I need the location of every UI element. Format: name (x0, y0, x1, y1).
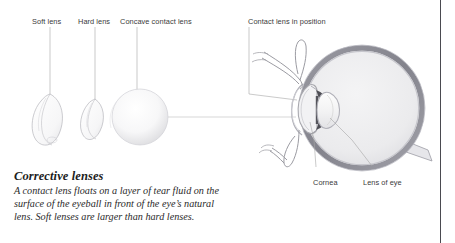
hard-lens-shape (81, 99, 104, 140)
caption-line-1: A contact lens floats on a layer of tear… (14, 184, 229, 197)
label-contact-lens-in-position: Contact lens in position (248, 17, 326, 26)
label-concave-contact-lens: Concave contact lens (120, 17, 192, 26)
lens-of-eye (317, 92, 340, 128)
page-vertical-rule (440, 0, 441, 243)
caption-line-3: lens. Soft lenses are larger than hard l… (14, 210, 229, 223)
caption-block: Corrective lenses A contact lens floats … (14, 169, 229, 224)
label-hard-lens: Hard lens (78, 17, 110, 26)
soft-lens-shape (32, 94, 62, 145)
figure-page: Soft lens Hard lens Concave contact lens… (0, 0, 455, 243)
leader-contact-lens-in-position (249, 27, 297, 100)
leader-lines-top (50, 27, 297, 112)
caption-body: A contact lens floats on a layer of tear… (14, 184, 229, 224)
lower-eyelid (270, 130, 299, 167)
upper-eyelid (262, 40, 306, 89)
concave-contact-lens-shape (110, 89, 168, 145)
eye-cross-section (252, 40, 432, 171)
caption-line-2: surface of the eyeball in front of the e… (14, 197, 229, 210)
label-cornea: Cornea (313, 178, 338, 187)
label-lens-of-eye: Lens of eye (363, 178, 402, 187)
label-soft-lens: Soft lens (32, 17, 61, 26)
caption-title: Corrective lenses (14, 169, 229, 183)
